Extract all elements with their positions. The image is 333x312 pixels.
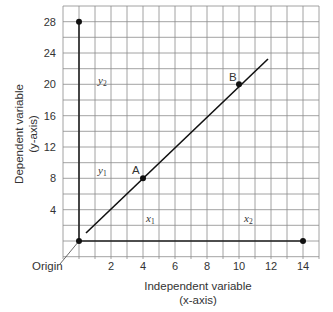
- point-origin: [76, 238, 82, 244]
- y-axis-title: Dependent variable: [13, 84, 25, 184]
- label-y2: y2: [97, 74, 107, 88]
- svg-text:14: 14: [297, 260, 309, 272]
- x-axis-title: Independent variable: [144, 280, 251, 292]
- y-axis-subtitle: (y-axis): [27, 115, 39, 153]
- point-x-max: [300, 238, 306, 244]
- point-y-max: [76, 19, 82, 25]
- label-b: B: [229, 71, 237, 83]
- point-a: [140, 175, 146, 181]
- svg-text:12: 12: [265, 260, 277, 272]
- svg-text:8: 8: [50, 172, 56, 184]
- svg-text:4: 4: [50, 204, 56, 216]
- svg-text:24: 24: [44, 47, 56, 59]
- x-tick-labels: 2 4 6 8 10 12 14: [108, 260, 309, 272]
- label-x1: x1: [145, 212, 155, 226]
- x-axis-subtitle: (x-axis): [179, 294, 217, 306]
- svg-text:20: 20: [44, 78, 56, 90]
- label-a: A: [132, 164, 140, 176]
- label-y1: y1: [97, 164, 107, 178]
- label-x2: x2: [243, 212, 253, 226]
- svg-text:2: 2: [108, 260, 114, 272]
- svg-text:16: 16: [44, 110, 56, 122]
- svg-text:28: 28: [44, 16, 56, 28]
- point-b: [236, 81, 242, 87]
- graph-diagram: 28 24 20 16 12 8 4 2 4 6 8 10 12 14 A B …: [0, 0, 333, 312]
- svg-text:12: 12: [44, 141, 56, 153]
- svg-text:8: 8: [204, 260, 210, 272]
- svg-text:4: 4: [140, 260, 146, 272]
- label-origin: Origin: [32, 260, 63, 272]
- svg-text:6: 6: [172, 260, 178, 272]
- svg-text:10: 10: [233, 260, 245, 272]
- y-tick-labels: 28 24 20 16 12 8 4: [44, 16, 56, 216]
